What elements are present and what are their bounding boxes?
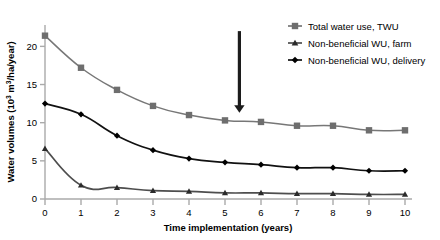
data-point-marker — [78, 65, 84, 71]
data-point-marker — [366, 127, 372, 133]
x-tick-label: 5 — [222, 207, 227, 218]
x-tick-label: 1 — [78, 207, 83, 218]
water-volumes-line-chart: 05101520 012345678910 Water volumes (103… — [0, 0, 440, 240]
y-axis-title: Water volumes (103 m3/ha/year) — [5, 41, 16, 182]
chart-figure: 05101520 012345678910 Water volumes (103… — [0, 0, 440, 240]
data-point-marker — [258, 119, 264, 125]
data-point-marker — [114, 87, 120, 93]
data-point-marker — [186, 112, 192, 118]
data-point-marker — [150, 103, 156, 109]
y-tick-label: 0 — [32, 193, 37, 204]
y-tick-label: 10 — [26, 117, 37, 128]
data-point-marker — [294, 123, 300, 129]
x-tick-label: 3 — [150, 207, 155, 218]
x-tick-label: 7 — [294, 207, 299, 218]
x-tick-label: 9 — [366, 207, 371, 218]
x-tick-label: 0 — [42, 207, 47, 218]
legend-item-3[interactable]: Non-beneficial WU, delivery — [288, 55, 425, 66]
x-tick-label: 2 — [114, 207, 119, 218]
svg-text:Water volumes (103 m3/ha/year): Water volumes (103 m3/ha/year) — [5, 41, 16, 182]
y-tick-label: 15 — [26, 79, 37, 90]
x-tick-label: 4 — [186, 207, 191, 218]
data-point-marker — [42, 32, 48, 38]
legend-label: Total water use, TWU — [308, 21, 399, 32]
x-tick-label: 6 — [258, 207, 263, 218]
data-point-marker — [292, 23, 298, 29]
x-tick-label: 8 — [330, 207, 335, 218]
data-point-marker — [402, 127, 408, 133]
y-tick-label: 20 — [26, 41, 37, 52]
x-tick-label: 10 — [400, 207, 411, 218]
data-point-marker — [222, 117, 228, 123]
legend-label: Non-beneficial WU, farm — [308, 38, 412, 49]
y-tick-label: 5 — [32, 155, 37, 166]
legend-label: Non-beneficial WU, delivery — [308, 55, 425, 66]
data-point-marker — [330, 123, 336, 129]
x-axis-title: Time implementation (years) — [164, 222, 293, 233]
